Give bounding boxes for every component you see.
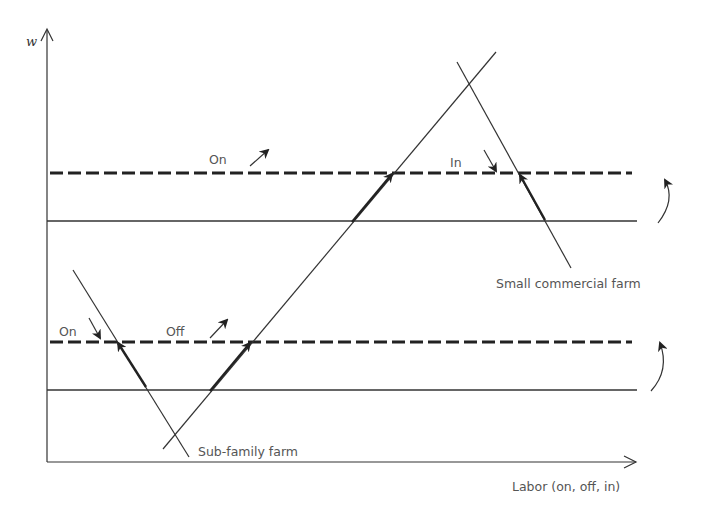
y-axis-label: w: [26, 34, 37, 49]
sub-family-shift-arrow-icon: [118, 343, 146, 387]
upper-in-label: In: [450, 155, 462, 170]
lower-off-direction-arrow-icon: [210, 320, 227, 338]
y-axis: [41, 29, 53, 462]
small-commercial-farm-label: Small commercial farm: [496, 276, 641, 291]
commercial-shift-arrow-icon: [520, 175, 545, 220]
sub-family-farm-label: Sub-family farm: [198, 444, 298, 459]
x-axis: [47, 456, 636, 468]
upper-in-direction-arrow-icon: [484, 150, 496, 171]
lower-on-label: On: [59, 324, 77, 339]
small-commercial-farm-line: [457, 62, 571, 268]
rising-lower-shift-arrow-icon: [210, 343, 250, 391]
lower-off-label: Off: [166, 324, 185, 339]
x-axis-label: Labor (on, off, in): [512, 479, 620, 494]
lower-level-shift-curved-arrow-icon: [651, 343, 663, 391]
upper-level-shift-curved-arrow-icon: [658, 180, 669, 223]
rising-upper-shift-arrow-icon: [352, 174, 392, 222]
upper-on-label: On: [209, 152, 227, 167]
labor-wage-diagram: w Labor (on, off, in) On In On Off Sub-f…: [0, 0, 705, 522]
upper-on-direction-arrow-icon: [250, 150, 268, 166]
lower-on-direction-arrow-icon: [89, 318, 100, 338]
